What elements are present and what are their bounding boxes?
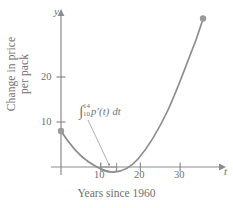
y-axis-variable-label: y <box>54 6 59 17</box>
curve-p-prime <box>61 19 203 172</box>
y-axis-title: Change in price per pack <box>5 14 39 134</box>
y-axis-title-line1: Change in price <box>5 14 18 134</box>
figure-container: Change in price per pack Years since 196… <box>0 0 233 208</box>
integral-lower-limit: 10 <box>83 110 90 118</box>
y-axis-title-line2: per pack <box>18 14 31 134</box>
y-tick-label-10: 10 <box>41 117 52 128</box>
integral-integrand: p′(t) dt <box>91 106 121 117</box>
endpoint-marker-left <box>58 128 64 134</box>
x-tick-label-20: 20 <box>134 170 145 181</box>
annotation-leader-line <box>88 120 110 166</box>
x-tick-label-30: 30 <box>174 170 185 181</box>
x-tick-label-10: 10 <box>94 170 105 181</box>
y-tick-label-20: 20 <box>41 72 52 83</box>
integral-annotation: ∫1410p′(t) dt <box>79 103 121 119</box>
x-axis-title: Years since 1960 <box>0 188 233 200</box>
y-axis <box>58 9 65 175</box>
endpoint-marker-right <box>200 15 206 21</box>
x-axis-variable-label: t <box>224 166 227 177</box>
